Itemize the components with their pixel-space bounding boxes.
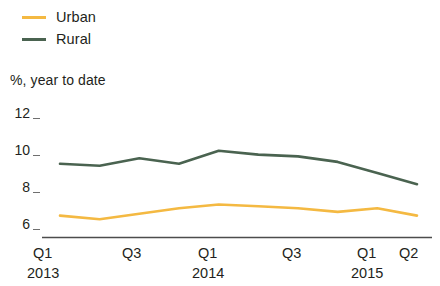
chart-plot-area (0, 0, 440, 286)
x-year-label-2013: 2013 (27, 265, 59, 281)
x-tick-label-q2-2015: Q2 (399, 245, 418, 261)
series-line-rural (60, 151, 417, 184)
x-year-label-2014: 2014 (192, 265, 224, 281)
series-line-urban (60, 205, 417, 220)
x-tick-label-q1-2015: Q1 (357, 245, 376, 261)
x-tick-label-q1-2013: Q1 (33, 245, 52, 261)
x-tick-label-q3-2014: Q3 (282, 245, 301, 261)
chart-svg (0, 0, 440, 286)
chart-container: Urban Rural %, year to date 12 10 8 6 Q1… (0, 0, 440, 286)
x-tick-label-q1-2014: Q1 (198, 245, 217, 261)
x-tick-label-q3-2013: Q3 (122, 245, 141, 261)
x-year-label-2015: 2015 (351, 265, 383, 281)
